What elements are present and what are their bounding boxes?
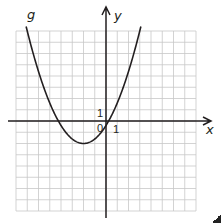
curve-label-g: g: [27, 8, 35, 21]
origin-label: 0: [97, 122, 103, 135]
y-unit-tick-label: 1: [97, 107, 103, 120]
function-graph: [0, 0, 221, 223]
page-corner-artifact: [211, 215, 221, 223]
y-axis-label: y: [114, 9, 122, 22]
x-unit-tick-label: 1: [113, 123, 119, 136]
x-axis-label: x: [206, 123, 214, 136]
